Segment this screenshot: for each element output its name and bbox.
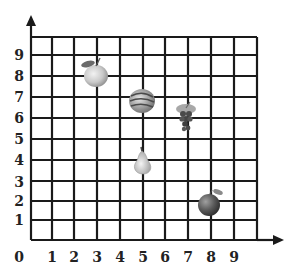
x-tick-label-5: 5 [136,250,150,264]
grapes-icon [176,102,196,131]
y-tick-label-6: 6 [12,111,26,125]
x-axis-arrow-icon [273,235,284,245]
y-tick-label-7: 7 [12,90,26,104]
x-tick-label-9: 9 [227,250,241,264]
y-tick-label-4: 4 [12,153,26,167]
y-tick-label-9: 9 [12,48,26,62]
coordinate-grid-diagram: 9 8 7 6 5 4 3 2 1 0 1 2 3 4 5 6 7 8 9 [0,0,300,272]
y-axis-arrow-icon [26,15,36,26]
y-tick-label-8: 8 [12,69,26,83]
y-tick-label-5: 5 [12,132,26,146]
x-axis [257,235,284,245]
apple-icon [80,58,108,87]
y-tick-label-2: 2 [12,194,26,208]
x-tick-label-6: 6 [158,250,172,264]
y-tick-label-1: 1 [12,213,26,227]
y-axis [26,15,36,37]
x-tick-label-3: 3 [90,250,104,264]
y-tick-label-3: 3 [12,175,26,189]
x-tick-label-8: 8 [204,250,218,264]
x-tick-label-1: 1 [45,250,59,264]
x-tick-label-2: 2 [67,250,81,264]
grid-lines [31,37,257,240]
x-tick-label-7: 7 [181,250,195,264]
grid-svg [0,0,300,272]
x-tick-label-4: 4 [113,250,127,264]
watermelon-icon [129,89,155,113]
pear-icon [134,147,150,174]
origin-label: 0 [12,250,26,264]
